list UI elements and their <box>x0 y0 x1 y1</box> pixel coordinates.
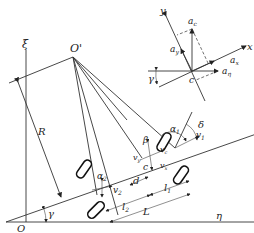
turn-center-label: O' <box>70 42 82 55</box>
gamma-label: γ <box>48 208 54 219</box>
rear-right-wheel <box>86 200 106 220</box>
dash-2 <box>192 29 208 63</box>
radius-arrow <box>18 82 61 197</box>
front-velocity-label: v1 <box>196 130 205 141</box>
inset-gamma-arc <box>156 70 157 84</box>
vx-label: vx <box>160 161 168 171</box>
origin-label: O <box>17 223 25 233</box>
ax-vector <box>192 61 214 71</box>
eta-label: η <box>216 210 222 221</box>
inset-center-label: c <box>189 75 194 85</box>
vehicle-kinematics-diagram: ξ O η γ R O' α2 v2 β c vc vx vy δ α <box>0 0 254 233</box>
vehicle-axis-line <box>6 132 254 222</box>
inset-y-label: y <box>159 5 166 16</box>
delta-label: δ <box>198 119 204 130</box>
l1-label: l1 <box>164 182 171 194</box>
gamma-arc <box>44 209 46 222</box>
dash-3 <box>196 71 218 80</box>
inset-x-label: x <box>247 41 253 52</box>
perpendicular-line <box>9 57 73 83</box>
d-label: d <box>133 175 139 186</box>
front-slip-label: α1 <box>170 124 180 135</box>
ax-label: ax <box>230 55 239 66</box>
inset-gamma-label: γ <box>148 73 154 84</box>
aeta-label: aη <box>222 66 231 78</box>
dash-1 <box>177 29 192 35</box>
front-right-wheel <box>172 165 190 186</box>
rear-velocity-label: v2 <box>113 185 122 196</box>
radius-label: R <box>37 126 46 137</box>
L-label: L <box>142 206 150 217</box>
rear-left-wheel <box>75 159 93 180</box>
xi-label: ξ <box>22 38 29 51</box>
cg-label: c <box>143 162 148 172</box>
beta-label: β <box>142 135 148 145</box>
ay-vector <box>181 49 192 71</box>
ac-label: ac <box>188 16 197 27</box>
ay-label: ay <box>170 44 179 56</box>
